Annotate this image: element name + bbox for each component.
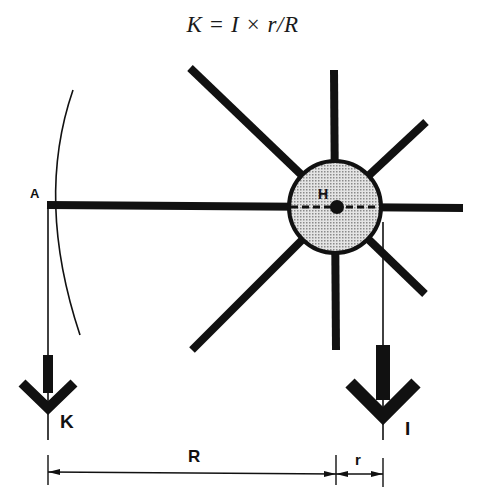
- lever-wheel-diagram: H A K I R r: [0, 0, 485, 500]
- distance-r-small-label: r: [355, 451, 361, 468]
- point-a-label: A: [30, 186, 40, 201]
- pivot-dot: [330, 200, 344, 214]
- force-i-label: I: [405, 418, 410, 439]
- dimension-lines: [48, 455, 383, 487]
- spokes: [47, 68, 463, 350]
- distance-r-big-label: R: [188, 447, 200, 466]
- rotation-arc: [56, 90, 80, 335]
- pivot-label: H: [318, 186, 328, 202]
- force-k-label: K: [60, 411, 74, 432]
